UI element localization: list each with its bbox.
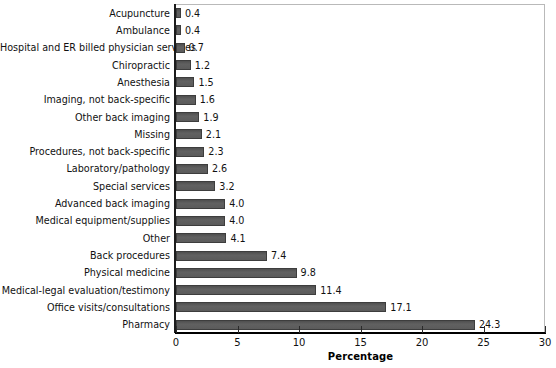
bar-value-label: 1.9 — [203, 112, 218, 123]
bar-container: 2.3 — [176, 143, 224, 161]
bar — [176, 251, 267, 261]
bar-value-label: 3.2 — [219, 181, 234, 192]
category-label: Physical medicine — [0, 267, 170, 278]
bar-container: 1.6 — [176, 91, 215, 109]
bar-container: 1.5 — [176, 73, 214, 91]
category-label: Pharmacy — [0, 319, 170, 330]
bar-value-label: 9.8 — [301, 267, 316, 278]
bar-container: 1.9 — [176, 108, 219, 126]
bar-row: Ambulance0.4 — [0, 21, 556, 39]
category-label: Anesthesia — [0, 77, 170, 88]
bar-row: Anesthesia1.5 — [0, 73, 556, 91]
bar — [176, 8, 181, 18]
category-label: Hospital and ER billed physician service… — [0, 42, 170, 53]
bar — [176, 268, 297, 278]
category-label: Imaging, not back-specific — [0, 94, 170, 105]
x-tick-label: 0 — [161, 337, 191, 349]
category-label: Acupuncture — [0, 8, 170, 19]
category-label: Chiropractic — [0, 60, 170, 71]
x-tick-mark — [238, 326, 239, 333]
bar-container: 0.4 — [176, 21, 200, 39]
bar — [176, 95, 196, 105]
bar-container: 1.2 — [176, 56, 210, 74]
bar-value-label: 4.0 — [229, 198, 244, 209]
x-tick-mark — [484, 326, 485, 333]
bar-container: 7.4 — [176, 246, 286, 264]
bar — [176, 181, 215, 191]
bar-value-label: 2.3 — [208, 146, 223, 157]
bar-container: 2.6 — [176, 160, 227, 178]
bar-value-label: 4.0 — [229, 215, 244, 226]
bar-container: 17.1 — [176, 298, 412, 316]
bar-row: Physical medicine9.8 — [0, 264, 556, 282]
category-label: Medical-legal evaluation/testimony — [0, 285, 170, 296]
category-label: Procedures, not back-specific — [0, 146, 170, 157]
bar-container: 3.2 — [176, 177, 235, 195]
category-label: Missing — [0, 129, 170, 140]
bar — [176, 112, 199, 122]
bar-value-label: 0.4 — [185, 25, 200, 36]
bar-container: 11.4 — [176, 281, 342, 299]
category-label: Laboratory/pathology — [0, 163, 170, 174]
bar-row: Pharmacy24.3 — [0, 316, 556, 334]
bar-chart: Acupuncture0.4Ambulance0.4Hospital and E… — [0, 0, 556, 368]
bar-container: 2.1 — [176, 125, 221, 143]
bar — [176, 164, 208, 174]
bar — [176, 129, 202, 139]
bar-value-label: 24.3 — [479, 319, 500, 330]
bar-container: 9.8 — [176, 264, 316, 282]
x-tick-mark — [545, 326, 546, 333]
x-tick-mark — [299, 326, 300, 333]
category-label: Special services — [0, 181, 170, 192]
bar — [176, 320, 475, 330]
x-tick-label: 5 — [223, 337, 253, 349]
bar-row: Imaging, not back-specific1.6 — [0, 91, 556, 109]
bar — [176, 77, 194, 87]
bar-value-label: 11.4 — [320, 285, 341, 296]
bar-row: Procedures, not back-specific2.3 — [0, 143, 556, 161]
bar — [176, 25, 181, 35]
bar-row: Hospital and ER billed physician service… — [0, 39, 556, 57]
bar-row: Office visits/consultations17.1 — [0, 298, 556, 316]
bar-rows: Acupuncture0.4Ambulance0.4Hospital and E… — [0, 4, 556, 333]
bar-value-label: 2.1 — [206, 129, 221, 140]
bar — [176, 285, 316, 295]
x-tick-mark — [422, 326, 423, 333]
x-tick-mark — [176, 326, 177, 333]
bar-row: Medical equipment/supplies4.0 — [0, 212, 556, 230]
category-label: Medical equipment/supplies — [0, 215, 170, 226]
bar — [176, 199, 225, 209]
x-tick-label: 25 — [469, 337, 499, 349]
bar-row: Missing2.1 — [0, 125, 556, 143]
bar-container: 0.4 — [176, 4, 200, 22]
category-label: Advanced back imaging — [0, 198, 170, 209]
bar-row: Laboratory/pathology2.6 — [0, 160, 556, 178]
bar-container: 24.3 — [176, 316, 500, 334]
bar — [176, 233, 226, 243]
bar-value-label: 17.1 — [390, 302, 411, 313]
bar-value-label: 2.6 — [212, 163, 227, 174]
bar-value-label: 0.4 — [185, 8, 200, 19]
x-tick-label: 20 — [407, 337, 437, 349]
category-label: Office visits/consultations — [0, 302, 170, 313]
bar-row: Special services3.2 — [0, 177, 556, 195]
category-label: Other back imaging — [0, 112, 170, 123]
bar — [176, 43, 185, 53]
bar — [176, 147, 204, 157]
bar-value-label: 1.2 — [195, 60, 210, 71]
bar — [176, 302, 386, 312]
x-tick-mark — [361, 326, 362, 333]
bar-container: 4.0 — [176, 194, 244, 212]
bar-value-label: 7.4 — [271, 250, 286, 261]
bar-value-label: 0.7 — [189, 42, 204, 53]
bar — [176, 216, 225, 226]
bar-row: Other back imaging1.9 — [0, 108, 556, 126]
bar-container: 0.7 — [176, 39, 204, 57]
bar-row: Medical-legal evaluation/testimony11.4 — [0, 281, 556, 299]
category-label: Other — [0, 233, 170, 244]
bar-value-label: 1.5 — [198, 77, 213, 88]
bar-row: Chiropractic1.2 — [0, 56, 556, 74]
category-label: Ambulance — [0, 25, 170, 36]
x-tick-label: 10 — [284, 337, 314, 349]
bar-row: Back procedures7.4 — [0, 246, 556, 264]
